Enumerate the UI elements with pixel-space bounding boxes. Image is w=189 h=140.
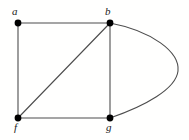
vertex-label-g: g	[106, 122, 112, 133]
edge-b-g-curved	[110, 23, 178, 118]
edge-f-b-diagonal	[18, 23, 110, 118]
edge-group	[18, 23, 178, 118]
vertex-b	[107, 20, 114, 27]
vertex-label-a: a	[12, 6, 18, 17]
graph-figure: a b f g	[0, 0, 189, 140]
vertex-a	[15, 20, 22, 27]
graph-canvas	[0, 0, 189, 140]
vertex-label-b: b	[105, 6, 111, 17]
vertex-label-f: f	[14, 122, 17, 133]
